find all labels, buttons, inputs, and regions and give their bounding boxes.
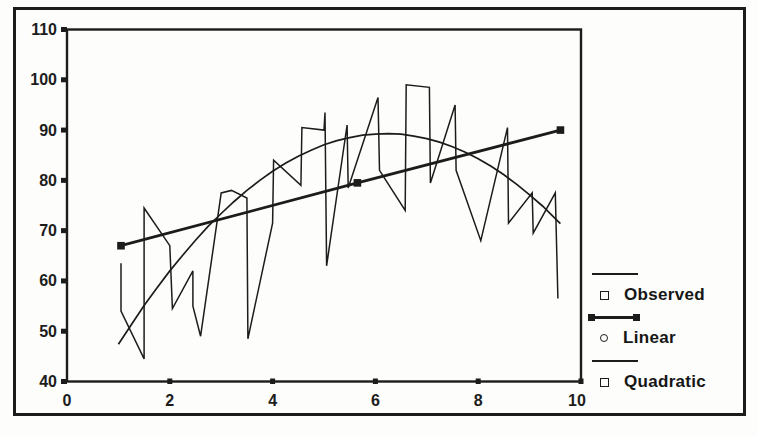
open-square-icon [600, 291, 609, 300]
chart-legend: Observed Linear Quadratic [586, 258, 750, 398]
legend-item-linear: Linear [600, 329, 676, 347]
legend-quadratic-line-swatch [592, 360, 638, 362]
x-axis-label: 8 [474, 392, 483, 409]
y-axis-label: 40 [39, 373, 57, 390]
x-axis-tick [476, 379, 481, 385]
y-axis-tick [61, 228, 67, 233]
legend-linear-line-swatch [589, 316, 639, 319]
x-axis-label: 4 [268, 392, 277, 409]
y-axis-label: 70 [39, 222, 57, 239]
y-axis-tick [61, 27, 67, 32]
y-axis-label: 110 [31, 21, 57, 38]
y-axis-label: 90 [39, 122, 57, 139]
y-axis-tick [61, 128, 67, 133]
legend-item-observed: Observed [600, 286, 705, 304]
y-axis-label: 60 [39, 272, 57, 289]
legend-item-quadratic: Quadratic [600, 373, 706, 391]
x-axis-tick [579, 379, 584, 385]
x-axis-label: 2 [165, 392, 174, 409]
linear-series-line [121, 130, 560, 246]
legend-linear-label: Linear [623, 329, 676, 347]
linear-marker [117, 242, 125, 250]
legend-quadratic-label: Quadratic [624, 373, 706, 391]
x-axis-tick [270, 379, 275, 385]
curve-fit-figure: 4050607080901001100246810 Observed Linea… [0, 0, 757, 436]
y-axis-label: 80 [39, 172, 57, 189]
x-axis-tick [373, 379, 378, 385]
legend-observed-line-swatch [592, 273, 638, 275]
quadratic-series-line [118, 134, 560, 345]
x-axis-label: 0 [63, 392, 72, 409]
observed-series-line [121, 85, 558, 359]
y-axis-tick [61, 379, 67, 384]
y-axis-tick [61, 77, 67, 82]
y-axis-tick [61, 178, 67, 183]
x-axis-label: 10 [568, 392, 586, 409]
y-axis-tick [61, 278, 67, 283]
y-axis-label: 100 [30, 71, 57, 88]
open-circle-icon [600, 334, 608, 342]
linear-marker [354, 179, 362, 187]
y-axis-label: 50 [39, 323, 57, 340]
legend-observed-label: Observed [624, 286, 705, 304]
y-axis-tick [61, 329, 67, 334]
open-square-icon [600, 378, 609, 387]
x-axis-tick [167, 379, 172, 385]
x-axis-label: 6 [371, 392, 380, 409]
linear-marker [557, 126, 565, 134]
